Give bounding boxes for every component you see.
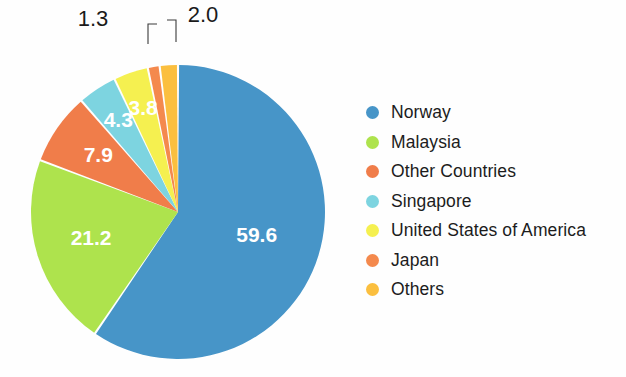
legend-item[interactable]: Norway [366,98,624,128]
legend-item-label: Other Countries [391,161,516,182]
pie-slice-value-label: 21.2 [71,226,112,249]
legend-color-swatch-icon [366,106,379,119]
legend-item-label: Singapore [391,191,472,212]
legend-color-swatch-icon [366,195,379,208]
legend-color-swatch-icon [366,165,379,178]
legend-color-swatch-icon [366,136,379,149]
legend-item-label: United States of America [391,220,586,241]
pie-slice-value-label: 7.9 [84,143,113,166]
legend-item[interactable]: Others [366,275,624,305]
legend-item-label: Malaysia [391,132,461,153]
legend-item[interactable]: Singapore [366,187,624,217]
legend-item[interactable]: Japan [366,246,624,276]
legend-color-swatch-icon [366,254,379,267]
pie-chart-figure: 59.621.27.94.33.8 1.32.0 NorwayMalaysiaO… [0,0,626,377]
legend-color-swatch-icon [366,283,379,296]
legend-item-label: Japan [391,250,439,271]
pie-slice-value-label: 3.8 [128,96,158,119]
legend-item-label: Others [391,279,444,300]
pie-slice-value-label: 2.0 [188,2,219,27]
pie-chart-svg: 59.621.27.94.33.8 1.32.0 [0,0,360,377]
legend-item[interactable]: Malaysia [366,128,624,158]
legend-item[interactable]: Other Countries [366,157,624,187]
legend-item-label: Norway [391,102,451,123]
legend-item[interactable]: United States of America [366,216,624,246]
pie-leader-lines-group [148,20,176,44]
pie-leader-line [167,20,176,42]
chart-legend: NorwayMalaysiaOther CountriesSingaporeUn… [366,98,624,305]
pie-leader-line [148,24,157,44]
pie-slice-value-label: 59.6 [236,223,277,246]
legend-color-swatch-icon [366,224,379,237]
pie-slices-group [31,65,325,359]
pie-chart-plot-area: 59.621.27.94.33.8 1.32.0 [0,0,360,377]
pie-slice-value-label: 1.3 [78,6,109,31]
